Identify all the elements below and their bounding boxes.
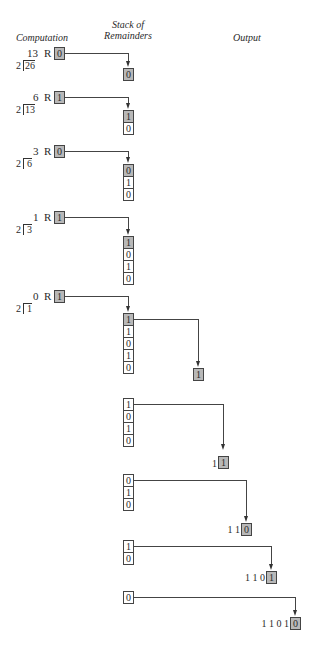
divisor: 2: [16, 60, 21, 71]
stack-cell: 0: [123, 272, 134, 285]
output-prefix: 1 1: [200, 524, 240, 535]
quotient: 3: [33, 146, 39, 157]
dividend: 26: [23, 60, 35, 71]
connector-line: [128, 217, 129, 229]
r-label: R: [44, 146, 51, 157]
r-label: R: [44, 212, 51, 223]
connector-line: [246, 480, 247, 516]
connector-line: [223, 404, 224, 444]
stack-cell: 0: [123, 188, 134, 201]
dividend: 13: [23, 104, 35, 115]
output-digit: 1: [218, 456, 229, 469]
stack-cell: 0: [123, 68, 134, 81]
dividend: 6: [23, 158, 32, 169]
arrow-down-icon: [196, 361, 200, 367]
connector-line: [134, 546, 271, 547]
remainder-box: 0: [54, 47, 65, 60]
output-prefix: 1 1 0 1: [240, 618, 289, 629]
divisor: 2: [16, 303, 21, 314]
connector-line: [65, 296, 128, 297]
divisor: 2: [16, 158, 21, 169]
header-stack: Stack of Remainders: [98, 19, 158, 41]
connector-line: [65, 97, 128, 98]
arrow-down-icon: [126, 157, 130, 163]
arrow-down-icon: [269, 564, 273, 570]
divisor: 2: [16, 224, 21, 235]
output-digit: 0: [290, 617, 301, 630]
quotient: 13: [27, 48, 38, 59]
stack-cell: 0: [123, 591, 134, 604]
quotient: 6: [33, 92, 39, 103]
connector-line: [65, 151, 128, 152]
output-prefix: 1: [180, 458, 217, 469]
arrow-down-icon: [244, 516, 248, 522]
remainder-box: 0: [54, 145, 65, 158]
remainder-box: 1: [54, 91, 65, 104]
stack-cell: 0: [123, 434, 134, 447]
header-output: Output: [222, 32, 272, 43]
arrow-down-icon: [126, 103, 130, 109]
arrow-down-icon: [221, 444, 225, 450]
output-digit: 1: [266, 571, 277, 584]
stack-cell: 0: [123, 552, 134, 565]
connector-line: [134, 597, 295, 598]
header-stack-line2: Remainders: [98, 30, 158, 41]
header-stack-line1: Stack of: [98, 19, 158, 30]
arrow-down-icon: [126, 229, 130, 235]
connector-line: [271, 546, 272, 564]
arrow-down-icon: [126, 306, 130, 312]
connector-line: [128, 53, 129, 61]
r-label: R: [44, 92, 51, 103]
connector-line: [134, 319, 198, 320]
connector-line: [65, 217, 128, 218]
quotient: 1: [33, 212, 39, 223]
stack-cell: 0: [123, 498, 134, 511]
quotient: 0: [33, 291, 39, 302]
remainder-box: 1: [54, 211, 65, 224]
connector-line: [65, 53, 128, 54]
output-digit: 1: [193, 368, 204, 381]
r-label: R: [44, 48, 51, 59]
arrow-down-icon: [293, 610, 297, 616]
dividend: 1: [23, 303, 32, 314]
output-prefix: 1 1 0: [225, 572, 265, 583]
output-digit: 0: [241, 523, 252, 536]
r-label: R: [44, 291, 51, 302]
remainder-box: 1: [54, 290, 65, 303]
connector-line: [134, 480, 246, 481]
header-computation: Computation: [12, 32, 72, 43]
dividend: 3: [23, 224, 32, 235]
stack-cell: 0: [123, 361, 134, 374]
stack-cell: 0: [123, 122, 134, 135]
connector-line: [134, 404, 223, 405]
connector-line: [128, 296, 129, 306]
divisor: 2: [16, 104, 21, 115]
connector-line: [295, 597, 296, 610]
connector-line: [198, 319, 199, 361]
arrow-down-icon: [126, 61, 130, 67]
